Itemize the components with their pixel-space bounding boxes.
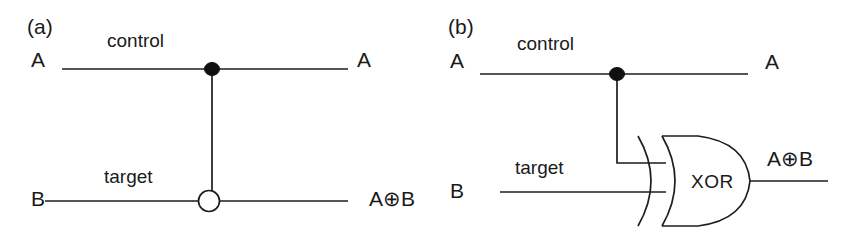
panel-a-input-label-a: A [31, 49, 45, 70]
panel-b-input-label-a: A [450, 50, 464, 71]
panel-b-control-wire-name: control [517, 34, 574, 53]
panel-b-output-operand-a: A [767, 147, 781, 170]
panel-b-circuit-drawing [426, 0, 852, 234]
panel-b-target-wire-name: target [515, 158, 564, 177]
control-dot-icon [610, 68, 625, 81]
panel-a-control-wire-name: control [107, 31, 164, 50]
panel-a-output-operand-a: A [369, 187, 383, 210]
xor-gate-back-arc [662, 136, 675, 226]
control-dot-icon [205, 63, 220, 76]
branch-connector-line [617, 74, 666, 163]
panel-b-output-operand-b: B [799, 147, 813, 170]
xor-gate-label: XOR [691, 172, 734, 191]
xor-operator-icon: ⊕ [781, 147, 799, 170]
target-circle-icon [199, 191, 220, 212]
panel-a-tag: (a) [27, 16, 53, 37]
panel-a-output-operand-b: B [401, 187, 415, 210]
panel-b-input-label-b: B [450, 180, 464, 201]
panel-a-output-label-a: A [357, 49, 371, 70]
panel-b: (b) A control B target XOR A A⊕B [426, 0, 852, 234]
panel-b-output-label-a: A [765, 51, 779, 72]
panel-b-tag: (b) [448, 16, 474, 37]
panel-a-circuit-drawing [0, 0, 426, 234]
panel-a: (a) A control B target A A⊕B [0, 0, 426, 234]
panel-a-input-label-b: B [31, 188, 45, 209]
xor-operator-icon: ⊕ [383, 187, 401, 210]
panel-a-output-label-axorb: A⊕B [369, 188, 415, 209]
panel-b-output-label-axorb: A⊕B [767, 148, 813, 169]
panel-a-target-wire-name: target [104, 167, 153, 186]
figure-cnot-vs-xor: (a) A control B target A A⊕B (b [0, 0, 852, 234]
xor-gate-outer-arc [638, 136, 651, 226]
